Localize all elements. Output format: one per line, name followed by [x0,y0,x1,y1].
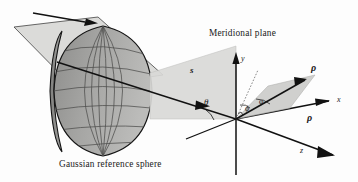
phi-angle-label: ϕ [245,105,249,113]
z-axis-label: z [300,147,303,155]
z-axis [236,119,335,158]
optics-figure: Meridional plane Gaussian reference sphe… [0,0,358,182]
rho-lower-label: ρ [307,113,312,123]
figure-canvas [0,0,358,182]
ray-direction-vector-label: s [190,66,194,75]
meridional-plane-caption: Meridional plane [209,29,276,38]
gaussian-reference-sphere-cap [53,26,152,156]
z-axis-negative [186,119,236,139]
gaussian-reference-sphere-caption: Gaussian reference sphere [59,160,162,169]
theta-angle-label: θ [204,98,208,107]
y-axis-label: y [241,55,245,63]
varphi-angle-label: φ [259,98,263,106]
meridional-plane-quad [150,46,236,119]
rho-upper-label: ρ [311,63,316,73]
x-axis-label: x [337,96,341,104]
